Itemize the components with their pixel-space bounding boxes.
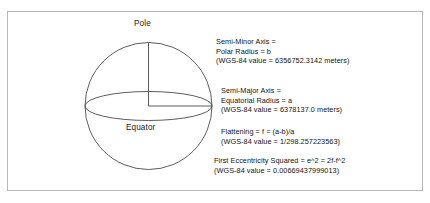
annotation-first-eccentricity-squared: First Eccentricity Squared = e^2 = 2f-f^… — [214, 156, 345, 175]
pole-label: Pole — [134, 19, 151, 28]
equator-label: Equator — [126, 123, 155, 132]
annotation-line: Semi-Major Axis = — [221, 86, 342, 96]
annotation-line: Polar Radius = b — [216, 47, 349, 57]
ellipsoid-figure: Pole Equator Semi-Minor Axis = Polar Rad… — [0, 0, 430, 203]
annotation-line: First Eccentricity Squared = e^2 = 2f-f^… — [214, 156, 345, 166]
annotation-line: (WGS-84 value = 0.00669437999013) — [214, 166, 345, 176]
annotation-semi-major-axis: Semi-Major Axis = Equatorial Radius = a … — [221, 86, 342, 115]
annotation-line: Equatorial Radius = a — [221, 96, 342, 106]
annotation-flattening: Flattening = f = (a-b)/a (WGS-84 value =… — [221, 127, 340, 146]
annotation-line: (WGS-84 value = 1/298.257223563) — [221, 137, 340, 147]
annotation-line: Flattening = f = (a-b)/a — [221, 127, 340, 137]
annotation-line: (WGS-84 value = 6356752.3142 meters) — [216, 56, 349, 66]
annotation-semi-minor-axis: Semi-Minor Axis = Polar Radius = b (WGS-… — [216, 37, 349, 66]
annotation-line: (WGS-84 value = 6378137.0 meters) — [221, 105, 342, 115]
annotation-line: Semi-Minor Axis = — [216, 37, 349, 47]
